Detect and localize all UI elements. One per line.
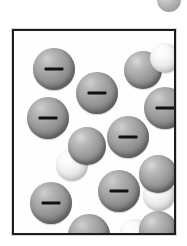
hydrogen-atom [150,43,176,73]
negative-charge-mark [110,190,129,193]
figure-root: Aqueous solution of anions and water mol… [0,0,187,246]
anion-7 [30,182,72,224]
figure-title: Aqueous solution of anions and water mol… [0,0,1,1]
anion-2 [76,72,118,114]
negative-charge-mark [88,92,107,95]
anion-8 [68,214,110,235]
negative-charge-mark [156,107,175,110]
anion-3 [27,97,69,139]
solution-container [12,29,176,235]
cropped-sphere-fragment [157,0,181,12]
negative-charge-mark [39,117,58,120]
anion-1 [33,48,75,90]
anion-4 [144,87,176,129]
negative-charge-mark [119,136,138,139]
negative-charge-mark [45,68,64,71]
oxygen-atom [139,155,176,193]
negative-charge-mark [80,234,99,236]
oxygen-atom [139,211,176,235]
anion-6 [98,170,140,212]
anion-5 [107,116,149,158]
negative-charge-mark [42,202,61,205]
oxygen-atom [68,127,106,165]
